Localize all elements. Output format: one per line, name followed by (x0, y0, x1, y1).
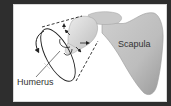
scapula-bone (102, 13, 163, 95)
diagram-panel: Humerus Scapula (13, 4, 167, 102)
shoulder-illustration (14, 5, 167, 102)
scapula-label: Scapula (118, 40, 151, 49)
humerus-label: Humerus (17, 78, 54, 87)
circular-arrow-left (36, 31, 44, 51)
